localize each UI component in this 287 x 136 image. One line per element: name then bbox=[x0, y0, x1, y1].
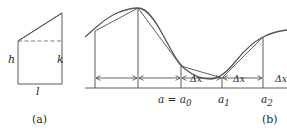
x-tick-a0-sub: 0 bbox=[186, 98, 192, 108]
trapezoid-label-l: l bbox=[36, 86, 40, 97]
x-tick-label-a2: a2 bbox=[261, 93, 273, 108]
trapezoidal-rule-drawing bbox=[85, 0, 287, 136]
trapezoid-label-k: k bbox=[57, 54, 64, 65]
x-tick-a0-main: a = a bbox=[158, 93, 186, 105]
x-tick-a1-sub: 1 bbox=[224, 98, 230, 108]
trapezoid-label-h: h bbox=[8, 54, 15, 65]
caption-panel-a: (a) bbox=[32, 113, 47, 126]
caption-panel-b: (b) bbox=[262, 113, 278, 126]
delta-x-label-3: Δx bbox=[275, 73, 287, 84]
x-tick-a2-sub: 2 bbox=[267, 98, 273, 108]
trapezoid-slant-edge bbox=[18, 13, 62, 41]
x-tick-label-a1: a1 bbox=[218, 93, 230, 108]
textbook-figure: h k l (a) bbox=[0, 0, 287, 136]
x-tick-label-a0: a = a0 bbox=[158, 93, 192, 108]
trapezoid-chords bbox=[95, 8, 263, 78]
trapezoid-shape bbox=[18, 13, 62, 84]
delta-x-label-1: Δx bbox=[190, 73, 202, 84]
figure-panel-b: y = f(x) Δx Δx Δx Δx a = a0 a1 a2 a3 a4 … bbox=[85, 0, 287, 136]
delta-x-label-2: Δx bbox=[233, 73, 245, 84]
